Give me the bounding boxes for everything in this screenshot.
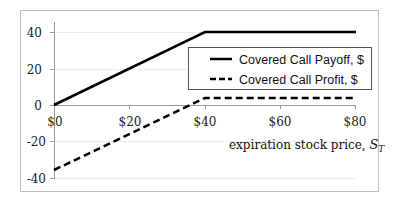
y-tick-label: 20 xyxy=(27,63,42,77)
x-tick-label: $40 xyxy=(194,115,217,129)
x-tick-label: $60 xyxy=(269,115,292,129)
x-axis-label: expiration stock price, ST xyxy=(229,137,385,154)
y-tick-label: 0 xyxy=(34,99,42,113)
legend-label-payoff: Covered Call Payoff, $ xyxy=(239,53,364,67)
chart-frame xyxy=(21,11,379,192)
x-tick-label: $80 xyxy=(344,115,367,129)
covered-call-chart: 40 20 0 -20 -40 $0 $20 $40 $60 $80 expir… xyxy=(0,0,396,203)
y-tick-label: 40 xyxy=(27,26,42,40)
legend-label-profit: Covered Call Profit, $ xyxy=(239,73,358,87)
x-tick-label: $20 xyxy=(119,115,142,129)
y-tick-label: -40 xyxy=(27,172,46,186)
legend: Covered Call Payoff, $ Covered Call Prof… xyxy=(189,48,372,90)
y-tick-label: -20 xyxy=(27,135,46,149)
x-tick-label: $0 xyxy=(47,115,62,129)
